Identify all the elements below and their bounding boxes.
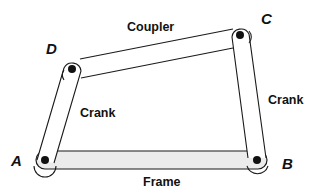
joint-label-A: A bbox=[10, 152, 22, 169]
joint-label-C: C bbox=[261, 10, 273, 27]
joint-label-B: B bbox=[282, 155, 293, 172]
pivot-pin-D bbox=[68, 65, 76, 73]
right-crank-link bbox=[232, 29, 266, 158]
frame-link bbox=[34, 151, 268, 177]
frame-label: Frame bbox=[143, 175, 181, 189]
coupler-label: Coupler bbox=[127, 20, 174, 34]
left-crank-link bbox=[37, 63, 81, 163]
right-crank-label: Crank bbox=[268, 93, 303, 107]
pivot-pin-B bbox=[253, 156, 261, 164]
pivot-pin-A bbox=[41, 156, 49, 164]
pivot-pin-C bbox=[236, 31, 244, 39]
coupler-link bbox=[80, 29, 233, 78]
four-bar-linkage-diagram: A B C D Coupler Crank Crank Frame bbox=[0, 0, 317, 194]
left-crank-label: Crank bbox=[80, 106, 115, 120]
joint-label-D: D bbox=[46, 40, 57, 57]
